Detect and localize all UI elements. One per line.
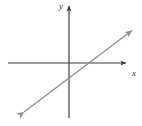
- graph-canvas: y x: [0, 0, 142, 126]
- y-axis-label: y: [58, 1, 63, 11]
- x-axis-label: x: [131, 68, 136, 78]
- plotted-line: [24, 31, 132, 113]
- coordinate-plane-figure: y x: [0, 0, 142, 126]
